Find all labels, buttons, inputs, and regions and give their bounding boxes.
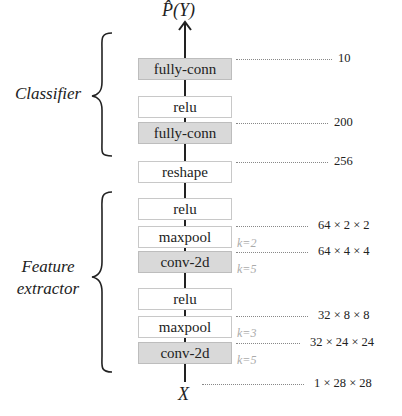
leader-line xyxy=(236,59,332,60)
layer-conv-2d-2: conv-2d xyxy=(138,251,232,273)
dim-label: 10 xyxy=(338,51,351,66)
dim-label: 32 × 8 × 8 xyxy=(318,308,370,323)
layer-maxpool-2: maxpool xyxy=(138,226,232,248)
dim-label: 64 × 4 × 4 xyxy=(318,244,370,259)
dim-label: 32 × 24 × 24 xyxy=(310,335,374,350)
input-label: X xyxy=(178,384,189,405)
feature-extractor-line1: Feature xyxy=(2,256,94,278)
classifier-label: Classifier xyxy=(2,84,94,104)
layer-conv-2d-1: conv-2d xyxy=(138,342,232,364)
leader-line xyxy=(236,162,328,163)
feature-extractor-line2: extractor xyxy=(2,278,94,300)
feature-extractor-label: Feature extractor xyxy=(2,256,94,300)
layer-maxpool-1: maxpool xyxy=(138,316,232,338)
layer-relu-classifier: relu xyxy=(138,96,232,118)
kernel-label: k=5 xyxy=(237,262,256,277)
output-label: P̂(Y) xyxy=(162,0,195,21)
dim-label: 64 × 2 × 2 xyxy=(318,218,370,233)
leader-line xyxy=(236,343,300,344)
leader-line xyxy=(236,316,308,317)
dim-label: 1 × 28 × 28 xyxy=(314,376,372,391)
kernel-label: k=3 xyxy=(237,326,256,341)
leader-line xyxy=(236,123,328,124)
layer-fully-conn-hidden: fully-conn xyxy=(138,122,232,144)
dim-label: 256 xyxy=(334,154,353,169)
kernel-label: k=2 xyxy=(237,236,256,251)
leader-line xyxy=(202,384,304,385)
kernel-label: k=5 xyxy=(237,353,256,368)
leader-line xyxy=(236,226,308,227)
layer-reshape: reshape xyxy=(138,161,232,183)
layer-relu-2: relu xyxy=(138,198,232,220)
classifier-brace xyxy=(92,33,112,156)
dim-label: 200 xyxy=(334,115,353,130)
leader-line xyxy=(236,252,308,253)
layer-relu-1: relu xyxy=(138,288,232,310)
layer-fully-conn-output: fully-conn xyxy=(138,58,232,80)
feature-extractor-brace xyxy=(92,192,112,372)
